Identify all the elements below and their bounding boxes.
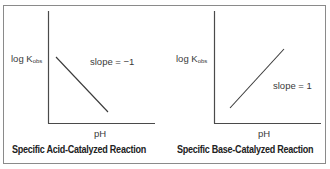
acid-slope-annotation: slope = −1 bbox=[90, 56, 134, 67]
y-label-subscript: obs bbox=[198, 58, 208, 64]
acid-x-axis-label: pH bbox=[94, 128, 106, 139]
base-y-axis-label: log Kobs bbox=[176, 53, 207, 64]
base-slope-annotation: slope = 1 bbox=[273, 80, 312, 91]
acid-caption: Specific Acid-Catalyzed Reaction bbox=[12, 143, 146, 155]
base-caption: Specific Base-Catalyzed Reaction bbox=[177, 143, 313, 155]
y-label-text: log K bbox=[11, 53, 33, 64]
acid-axes bbox=[48, 11, 155, 124]
base-rate-line bbox=[230, 49, 284, 108]
acid-y-axis-label: log Kobs bbox=[11, 53, 42, 64]
y-label-text: log K bbox=[176, 53, 198, 64]
base-x-axis-label: pH bbox=[258, 128, 270, 139]
y-label-subscript: obs bbox=[33, 58, 43, 64]
